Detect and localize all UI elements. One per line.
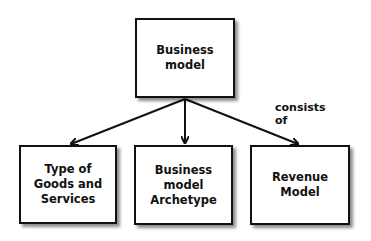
type-of-goods-label: Type of Goods and Services	[34, 162, 103, 207]
business-model-label: Business model	[156, 43, 213, 73]
type-of-goods-node: Type of Goods and Services	[19, 145, 117, 224]
revenue-model-node: Revenue Model	[250, 145, 350, 225]
consists-of-label: consists of	[275, 101, 326, 127]
business-model-archetype-label: Business model Archetype	[150, 163, 216, 208]
arrow-to-type-of-goods	[71, 99, 185, 144]
business-model-node: Business model	[135, 18, 235, 98]
business-model-archetype-node: Business model Archetype	[134, 145, 233, 225]
revenue-model-label: Revenue Model	[272, 170, 328, 200]
